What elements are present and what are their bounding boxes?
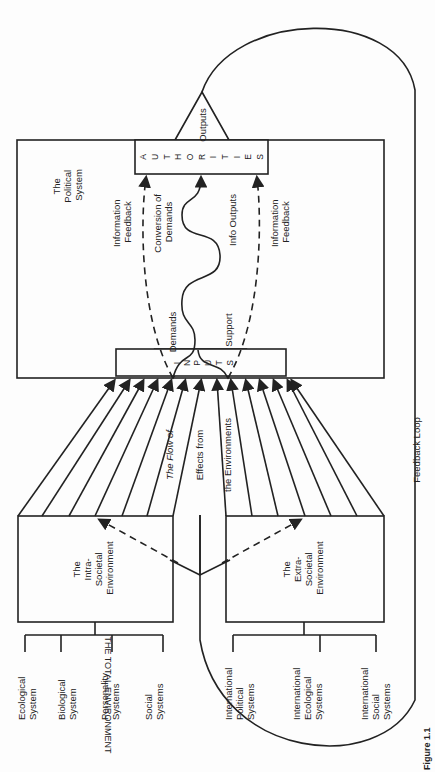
authorities-letters: A U T H O R I T I E S: [138, 153, 265, 160]
info-feedback-right-label: Information Feedback: [269, 197, 291, 247]
svg-text:I: I: [172, 362, 182, 364]
svg-text:T: T: [162, 154, 172, 159]
svg-text:P: P: [192, 360, 202, 366]
total-environment-label: THE TOTAL ENVIRONMENT: [103, 636, 113, 754]
inputs-letters: I N P U T S: [172, 360, 235, 366]
svg-text:I: I: [232, 156, 242, 158]
feedback-loop-label: Feedback Loop: [411, 417, 422, 483]
subsystem-social: SocialSystems: [143, 683, 165, 720]
svg-text:R: R: [197, 154, 207, 160]
svg-text:S: S: [255, 154, 265, 160]
svg-text:I: I: [208, 156, 218, 158]
info-feedback-left-label: Information Feedback: [111, 197, 133, 247]
figure-caption: Figure 1.1: [422, 727, 432, 770]
demands-label: Demands: [167, 311, 178, 352]
svg-text:A: A: [138, 154, 148, 160]
svg-text:E: E: [243, 154, 253, 160]
support-label: Support: [223, 313, 234, 347]
outputs-label: Outputs: [197, 108, 208, 142]
svg-text:S: S: [225, 360, 235, 366]
total-env-stem: [170, 515, 230, 575]
svg-text:H: H: [173, 154, 183, 160]
subsystem-biological: BiologicalSystem: [56, 679, 78, 720]
svg-text:U: U: [150, 154, 160, 160]
flow-label-2: Effects from: [194, 430, 205, 481]
subsystem-intl-ecological: InternationalEcologicalSystems: [291, 668, 324, 720]
svg-text:U: U: [203, 360, 213, 366]
subsystem-ecological: EcologicalSystem: [16, 677, 38, 720]
info-outputs-label: Info Outputs: [227, 194, 238, 246]
flow-label-1: The Flow of: [164, 429, 175, 480]
easton-political-system-diagram: The Political System Information Feedbac…: [0, 0, 435, 772]
subsystem-intl-political: InternationalPoliticalSystems: [223, 668, 256, 720]
intra-tree: [25, 622, 163, 652]
subsystem-intl-social: InternationalSocialSystems: [359, 668, 392, 720]
diagram-canvas: The Political System Information Feedbac…: [0, 0, 435, 772]
extra-tree: [233, 622, 376, 652]
svg-text:T: T: [220, 154, 230, 159]
svg-text:N: N: [182, 360, 192, 366]
svg-text:T: T: [214, 360, 224, 365]
flow-label-3: the Environments: [222, 418, 233, 492]
svg-text:O: O: [185, 153, 195, 160]
